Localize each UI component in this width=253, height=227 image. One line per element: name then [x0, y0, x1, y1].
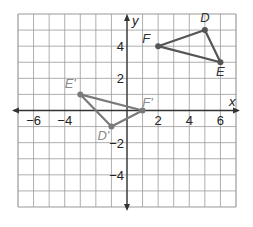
- y-tick-label: 4: [117, 39, 124, 54]
- y-tick-label: 2: [117, 71, 124, 86]
- y-tick-label: −4: [109, 168, 124, 183]
- coordinate-plane: xy −6−424642−2−4 DEFD'E'F': [0, 0, 253, 227]
- y-tick-label: −2: [109, 136, 124, 151]
- x-tick-label: 4: [186, 113, 193, 128]
- x-tick-label: 6: [217, 113, 224, 128]
- vertex-point: [202, 27, 208, 33]
- vertex-label: F: [142, 31, 151, 46]
- x-tick-label: −6: [26, 113, 41, 128]
- vertex-point: [155, 43, 161, 49]
- x-tick-label: 2: [155, 113, 162, 128]
- x-tick-label: −4: [57, 113, 72, 128]
- vertex-label: E': [65, 76, 77, 91]
- axes: xy: [12, 13, 240, 211]
- x-axis-label: x: [228, 94, 236, 109]
- y-axis-up-arrow-icon: [124, 14, 130, 21]
- triangle-def: DEF: [142, 10, 225, 79]
- vertex-label: D': [97, 128, 109, 143]
- vertex-label: F': [142, 95, 153, 110]
- vertex-point: [77, 91, 83, 97]
- vertex-label: E: [216, 64, 225, 79]
- x-axis-left-arrow-icon: [12, 108, 19, 114]
- vertex-label: D: [200, 10, 209, 25]
- triangle-d-primee-primef-prime: D'E'F': [65, 76, 154, 142]
- y-axis-label: y: [131, 13, 140, 28]
